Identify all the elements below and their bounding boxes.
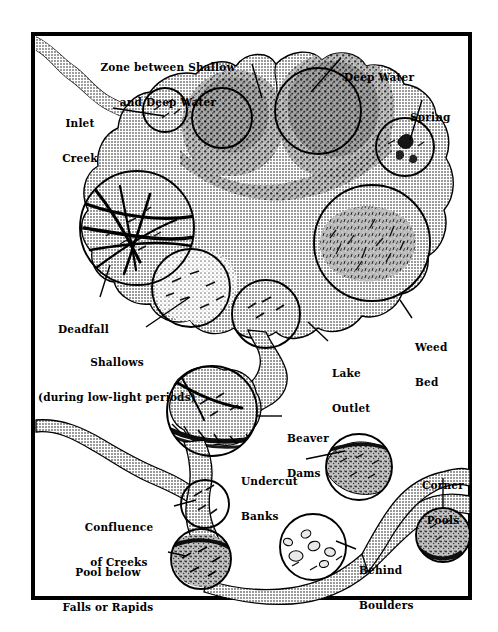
label-line: (during low-light periods) [22, 392, 212, 404]
label-inlet-creek: Inlet Creek [50, 94, 110, 188]
label-line: Beaver [287, 433, 329, 445]
label-line: Bed [415, 377, 447, 389]
label-line: Pools [411, 515, 475, 527]
label-corner-pools: Corner Pools [411, 456, 475, 550]
label-behind-boulders: Behind Boulders [359, 541, 414, 632]
label-line: Pool below [50, 567, 166, 579]
label-undercut-banks: Undercut Banks [241, 452, 298, 546]
label-line: Confluence [66, 522, 172, 534]
label-line: Deep Water [344, 72, 414, 84]
label-line: Shallows [22, 357, 212, 369]
label-weed-bed: Weed Bed [415, 318, 447, 412]
label-line: Corner [411, 480, 475, 492]
label-line: Weed [415, 342, 447, 354]
label-spring: Spring [410, 88, 451, 147]
label-line: Outlet [332, 403, 370, 415]
weed-bed-zone [320, 206, 416, 281]
label-line: Falls or Rapids [50, 602, 166, 614]
habitat-diagram: Zone between Shallow and Deep Water Deep… [0, 0, 498, 632]
label-lake-outlet: Lake Outlet [332, 344, 370, 438]
label-line: Creek [50, 153, 110, 165]
label-deep-water: Deep Water [344, 48, 414, 107]
label-line: Inlet [50, 118, 110, 130]
label-line: Zone between Shallow [90, 62, 246, 74]
label-line: Spring [410, 112, 451, 124]
label-zone-between-shallow-and-deep-water: Zone between Shallow and Deep Water [90, 38, 246, 132]
label-line: Behind [359, 565, 414, 577]
label-pool-below-falls-or-rapids: Pool below Falls or Rapids [50, 543, 166, 632]
label-line: Lake [332, 368, 370, 380]
label-line: and Deep Water [90, 97, 246, 109]
label-shallows: Shallows (during low-light periods) [22, 333, 212, 427]
label-line: Boulders [359, 600, 414, 612]
label-line: Undercut [241, 476, 298, 488]
label-line: Banks [241, 511, 298, 523]
